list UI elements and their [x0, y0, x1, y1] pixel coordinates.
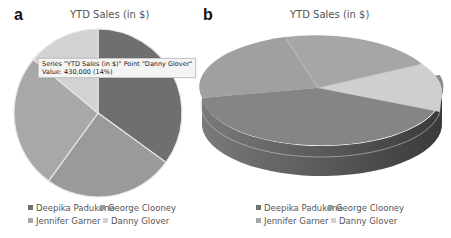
legend-swatch-icon [100, 205, 105, 210]
legend-swatch-icon [103, 218, 108, 223]
legend-item-danny[interactable]: Danny Glover [103, 216, 169, 226]
legend-item-jennifer[interactable]: Jennifer Garner [256, 216, 329, 226]
legend-item-george[interactable]: George Clooney [100, 203, 176, 213]
legend-item-jennifer[interactable]: Jennifer Garner [28, 216, 101, 226]
legend-label: George Clooney [336, 203, 404, 213]
legend-swatch-icon [331, 218, 336, 223]
pie-a [14, 29, 182, 197]
legend-swatch-icon [256, 218, 261, 223]
tooltip-danny-glover: Series "YTD Sales (in $)" Point "Danny G… [38, 58, 196, 78]
legend-label: Danny Glover [339, 216, 397, 226]
legend-label: Jennifer Garner [264, 216, 329, 226]
legend-label: Danny Glover [111, 216, 169, 226]
legend-swatch-icon [256, 205, 261, 210]
pie-b [199, 35, 443, 176]
legend-label: Jennifer Garner [36, 216, 101, 226]
legend-swatch-icon [328, 205, 333, 210]
legend-item-danny[interactable]: Danny Glover [331, 216, 397, 226]
tooltip-series-line: Series "YTD Sales (in $)" Point "Danny G… [42, 60, 192, 68]
legend-item-george[interactable]: George Clooney [328, 203, 404, 213]
legend-label: George Clooney [108, 203, 176, 213]
legend-swatch-icon [28, 218, 33, 223]
legend-swatch-icon [28, 205, 33, 210]
tooltip-value-line: Value: 430,000 (14%) [42, 68, 192, 76]
